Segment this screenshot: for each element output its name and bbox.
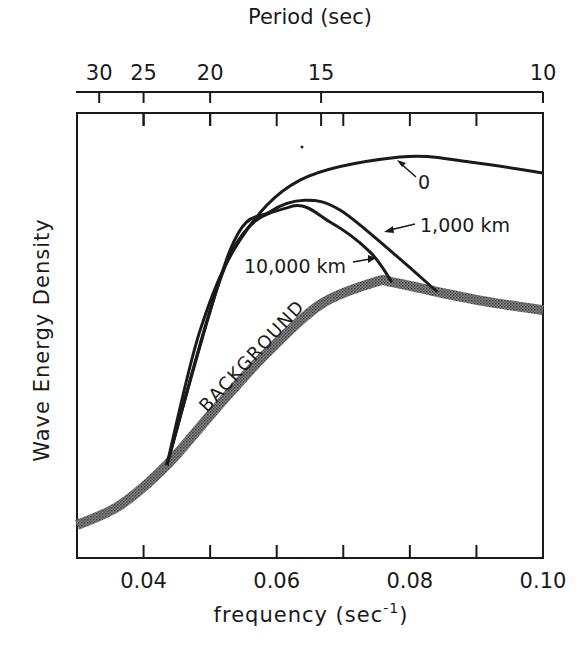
annotation-10000km: 10,000 km [244,255,376,277]
top-tick-label: 20 [197,61,224,85]
svg-text:1,000 km: 1,000 km [420,214,510,236]
svg-text:10,000 km: 10,000 km [244,255,346,277]
series-0 [167,156,543,465]
chart-svg: Period (sec) 3025201510 0.040.060.080.10… [0,0,586,658]
annotation-0: 0 [397,160,430,193]
top-axis-title: Period (sec) [248,5,372,29]
top-tick-label: 10 [530,61,557,85]
svg-text:0.10: 0.10 [520,569,567,593]
series-group [77,156,543,525]
series-background [77,280,543,525]
top-period-axis: Period (sec) 3025201510 [76,5,556,103]
x-axis-label: frequency (sec-1) [214,600,409,627]
x-tick-labels: 0.040.060.080.10 [120,569,566,593]
annotation-1000km: 1,000 km [384,214,510,236]
background-label: BACKGROUND [195,295,309,415]
scan-speck [301,146,304,149]
y-axis-label: Wave Energy Density [30,218,54,461]
top-tick-label: 30 [86,61,113,85]
plot-frame [77,113,543,558]
top-tick-label: 25 [130,61,157,85]
svg-text:0: 0 [418,171,430,193]
top-tick-label: 15 [308,61,335,85]
svg-text:0.08: 0.08 [386,569,433,593]
svg-text:0.04: 0.04 [120,569,167,593]
svg-text:0.06: 0.06 [253,569,300,593]
